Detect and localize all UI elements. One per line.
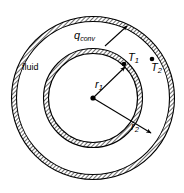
r1-subscript: 1 bbox=[99, 83, 103, 92]
t2-symbol: T bbox=[151, 61, 158, 73]
t1-symbol: T bbox=[128, 51, 135, 63]
t2-label: T2 bbox=[151, 62, 162, 75]
q-conv-subscript: conv bbox=[80, 35, 95, 42]
t1-subscript: 1 bbox=[135, 56, 139, 65]
pipe-cross-section-figure: fluid qconv T1 T2 r1 r2 bbox=[0, 0, 184, 193]
r2-label: r2 bbox=[131, 121, 139, 134]
center-point-dot bbox=[90, 95, 95, 100]
figure-canvas bbox=[0, 0, 184, 193]
q-conv-label: qconv bbox=[74, 30, 95, 42]
t1-label: T1 bbox=[128, 52, 139, 65]
fluid-label: fluid bbox=[22, 63, 39, 72]
t2-subscript: 2 bbox=[158, 66, 162, 75]
r2-subscript: 2 bbox=[135, 125, 139, 134]
t1-surface-dot bbox=[122, 62, 127, 67]
r1-label: r1 bbox=[95, 79, 103, 92]
